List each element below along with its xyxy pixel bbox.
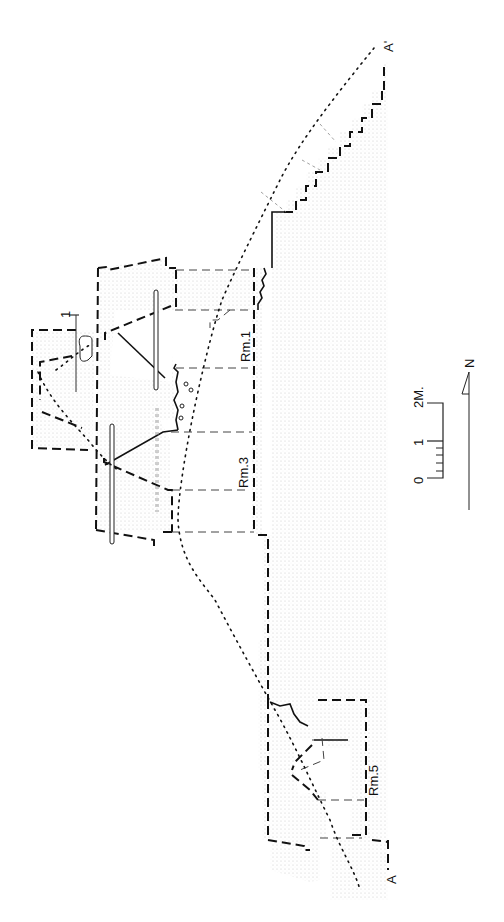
scale-tick-1: 1 xyxy=(411,439,426,446)
room-label-rm3: Rm.3 xyxy=(236,457,251,488)
scale-tick-0: 0 xyxy=(411,477,426,484)
section-start-label: A xyxy=(384,875,399,884)
scale-tick-2m: 2M. xyxy=(411,386,426,408)
north-arrow: N xyxy=(462,359,477,510)
room-label-rm1: Rm.1 xyxy=(238,331,253,362)
section-drawing: A' A Rm.1 Rm.3 Rm.5 1 0 1 2M. N xyxy=(0,0,504,922)
scale-bar: 0 1 2M. xyxy=(411,386,443,484)
section-end-label: A' xyxy=(381,41,396,52)
marker-label-1: 1 xyxy=(58,311,73,318)
north-arrow-label: N xyxy=(462,359,477,368)
room-label-rm5: Rm.5 xyxy=(366,765,381,796)
